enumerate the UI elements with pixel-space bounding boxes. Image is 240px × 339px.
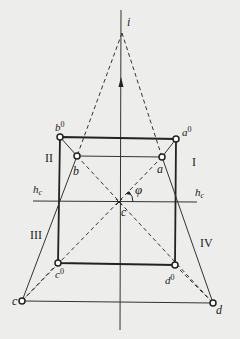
dashed-line-d0-d bbox=[175, 265, 213, 303]
horizon-line bbox=[33, 201, 197, 202]
line-b-a bbox=[77, 156, 162, 157]
label-c0: c0 bbox=[55, 267, 64, 280]
vertical-axis bbox=[120, 10, 121, 330]
dashed-diagonal-b-d bbox=[77, 156, 213, 303]
diagram-svg: i b0 a0 b a φ hc hc c c0 d0 c d I II III… bbox=[0, 0, 240, 339]
label-i: i bbox=[127, 15, 130, 29]
label-center-c: c bbox=[121, 205, 127, 219]
label-c: c bbox=[12, 294, 18, 308]
point-b0 bbox=[57, 134, 63, 140]
perspective-diagram: i b0 a0 b a φ hc hc c c0 d0 c d I II III… bbox=[0, 0, 240, 339]
point-c0 bbox=[55, 260, 61, 266]
axis-arrow-icon bbox=[119, 77, 124, 87]
label-d: d bbox=[216, 303, 223, 317]
point-a0 bbox=[173, 136, 179, 142]
region-label-III: III bbox=[30, 228, 42, 242]
label-a: a bbox=[157, 162, 163, 176]
region-label-II: II bbox=[45, 151, 53, 165]
point-b bbox=[74, 153, 80, 159]
line-c-d bbox=[22, 301, 213, 303]
region-label-IV: IV bbox=[200, 236, 213, 250]
label-b0: b0 bbox=[55, 120, 65, 133]
label-d0: d0 bbox=[165, 273, 175, 286]
label-hc-left: hc bbox=[33, 183, 43, 197]
point-d0 bbox=[172, 262, 178, 268]
label-hc-right: hc bbox=[195, 186, 205, 200]
dashed-line-c0-c bbox=[22, 263, 58, 301]
point-a bbox=[159, 154, 165, 160]
label-a0: a0 bbox=[182, 125, 192, 138]
region-label-I: I bbox=[192, 155, 196, 169]
line-b0-b bbox=[60, 137, 77, 156]
point-c bbox=[19, 298, 25, 304]
label-phi: φ bbox=[135, 182, 142, 197]
label-b: b bbox=[73, 164, 79, 178]
